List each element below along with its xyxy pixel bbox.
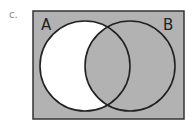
venn-diagram: A B (0, 0, 195, 123)
set-a-label: A (41, 16, 52, 34)
set-b-label: B (163, 16, 173, 34)
